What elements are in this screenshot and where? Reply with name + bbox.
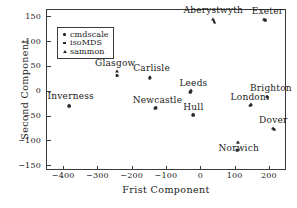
marker-triangle-icon [148, 75, 152, 78]
x-tick [235, 166, 236, 170]
y-tick [47, 140, 51, 141]
legend-marker-triangle-icon [61, 48, 68, 56]
legend-marker-square-icon [61, 39, 68, 47]
y-tick [47, 116, 51, 117]
x-tick [269, 166, 270, 170]
city-label: Hull [183, 102, 203, 112]
city-label: Carlisle [133, 63, 170, 73]
legend-label: sammon [70, 48, 105, 56]
x-tick [132, 166, 133, 170]
marker-triangle-icon [249, 103, 253, 106]
marker-triangle-icon [115, 69, 119, 72]
city-label: Aberystwyth [183, 5, 243, 15]
legend-entry: isoMDS [61, 39, 109, 47]
marker-triangle-icon [67, 104, 71, 107]
x-tick [200, 166, 201, 170]
marker-square-icon [267, 97, 270, 100]
city-label: London [231, 92, 266, 102]
y-axis-title: Second Component [19, 10, 30, 170]
x-axis-title: Frist Component [46, 184, 286, 195]
legend: cmdscaleisoMDSsammon [57, 27, 114, 59]
x-tick-label: 200 [249, 171, 289, 180]
scatter-plot: −400−300−200−1000100200 −150−100−5005010… [0, 0, 297, 208]
x-tick [63, 166, 64, 170]
y-tick [47, 165, 51, 166]
legend-entry: sammon [61, 48, 109, 56]
city-label: Leeds [179, 78, 207, 88]
marker-triangle-icon [265, 94, 269, 97]
marker-triangle-icon [189, 88, 193, 91]
marker-triangle-icon [211, 17, 215, 20]
x-tick [97, 166, 98, 170]
city-label: Norwich [218, 143, 258, 153]
marker-triangle-icon [154, 106, 158, 109]
legend-marker-circle-icon [61, 31, 68, 39]
marker-triangle-icon [262, 18, 266, 21]
city-label: Inverness [48, 91, 94, 101]
city-label: Exeter [252, 6, 283, 16]
marker-square-icon [189, 91, 192, 94]
marker-triangle-icon [271, 127, 275, 130]
y-tick [47, 66, 51, 67]
y-tick [47, 16, 51, 17]
city-label: Dover [259, 115, 287, 125]
marker-square-icon [116, 75, 119, 78]
x-tick [166, 166, 167, 170]
legend-label: isoMDS [70, 39, 102, 47]
marker-square-icon [213, 22, 216, 25]
city-label: Newcastle [133, 95, 183, 105]
city-label: Glasgow [95, 58, 135, 68]
marker-triangle-icon [191, 113, 195, 116]
y-tick [47, 41, 51, 42]
